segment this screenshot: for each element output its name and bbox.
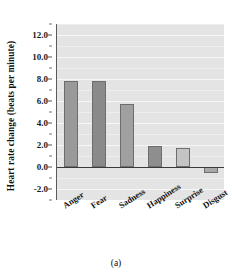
y-axis-tick-mark [49,200,52,201]
gridline [57,123,224,124]
bar-surprise [176,148,190,167]
y-axis-tick-mark [48,79,52,80]
y-axis-tick-mark [48,167,52,168]
gridline [57,79,224,80]
y-axis-label: Heart rate change (beats per minute) [6,41,16,191]
figure-panel: Heart rate change (beats per minute) 12.… [0,0,232,280]
y-axis-tick-mark [48,35,52,36]
y-axis-tick-mark [48,123,52,124]
y-axis-tick-label: 10.0 [32,52,48,62]
gridline [57,24,224,25]
gridline [57,178,224,179]
y-axis-tick-mark [49,112,52,113]
y-axis-tick-label: 12.0 [32,30,48,40]
y-axis-tick-label: 4.0 [37,118,48,128]
gridline [57,35,224,36]
y-axis-label-container: Heart rate change (beats per minute) [0,0,22,232]
bar-anger [64,81,78,167]
y-axis-tick-mark [48,101,52,102]
gridline [57,57,224,58]
y-axis-tick-label: 8.0 [37,74,48,84]
y-axis-tick-mark [48,189,52,190]
y-axis-tick-mark [49,24,52,25]
bar-fear [92,81,106,167]
y-axis-tick-mark [49,134,52,135]
y-axis-tick-label: 2.0 [37,140,48,150]
gridline [57,145,224,146]
gridline [57,101,224,102]
y-axis-tick-label: -2.0 [34,184,48,194]
gridline [57,134,224,135]
zero-baseline [57,167,224,168]
gridline [57,68,224,69]
y-axis-tick-label: 6.0 [37,96,48,106]
bar-happiness [148,146,162,167]
gridline [57,90,224,91]
y-axis-tick-mark [49,46,52,47]
y-axis-tick-group: 12.010.08.06.04.02.00.0-2.0 [22,24,52,200]
y-axis-tick-mark [48,145,52,146]
gridline [57,46,224,47]
y-axis-tick-label: 0.0 [37,162,48,172]
y-axis-tick-mark [49,178,52,179]
gridline [57,112,224,113]
y-axis-tick-mark [49,156,52,157]
gridline [57,156,224,157]
figure-caption: (a) [0,258,232,268]
y-axis-tick-mark [49,90,52,91]
y-axis-tick-mark [49,68,52,69]
x-axis-tick-group: AngerFearSadnessHappinessSurpriseDisgust [56,200,224,256]
plot-area [56,24,224,200]
bar-sadness [120,104,134,167]
y-axis-tick-mark [48,57,52,58]
